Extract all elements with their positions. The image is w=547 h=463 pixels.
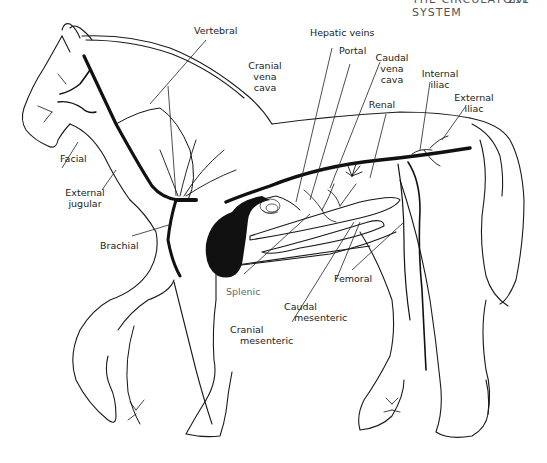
label-vertebral: Vertebral <box>194 25 237 36</box>
label-external-iliac: External iliac <box>452 92 496 114</box>
label-portal: Portal <box>339 45 366 56</box>
label-caudal-mesenteric: Caudal mesenteric <box>284 301 347 323</box>
label-splenic: Splenic <box>226 286 260 297</box>
label-cranial-vena-cava: Cranial vena cava <box>240 60 290 93</box>
label-facial: Facial <box>60 153 87 164</box>
label-femoral: Femoral <box>334 273 372 284</box>
label-cranial-mesenteric: Cranial mesenteric <box>230 324 293 346</box>
label-internal-iliac: Internal iliac <box>420 68 460 90</box>
hepatic-plexus <box>260 199 280 214</box>
label-hepatic-veins: Hepatic veins <box>310 27 375 38</box>
label-brachial: Brachial <box>100 240 139 251</box>
label-renal: Renal <box>364 99 400 110</box>
label-caudal-vena-cava: Caudal vena cava <box>372 52 412 85</box>
label-external-jugular: External jugular <box>64 187 106 209</box>
